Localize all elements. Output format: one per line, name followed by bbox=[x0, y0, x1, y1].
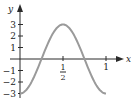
x-axis-label: x bbox=[126, 54, 131, 64]
y-tick-label: −1 bbox=[3, 66, 16, 76]
y-tick-label: −3 bbox=[3, 89, 17, 99]
y-tick-label: 2 bbox=[10, 31, 16, 41]
y-tick-label: −2 bbox=[3, 77, 16, 87]
y-axis-label: y bbox=[7, 4, 14, 14]
chart: x y 321−1−2−3121 bbox=[0, 0, 131, 101]
y-axis-arrow-icon bbox=[17, 4, 23, 12]
x-tick-label-numerator: 1 bbox=[60, 63, 65, 72]
x-axis-arrow-icon bbox=[116, 56, 124, 62]
axes: x y bbox=[7, 4, 131, 98]
y-tick-label: 1 bbox=[10, 43, 16, 53]
x-tick-label: 1 bbox=[103, 62, 109, 72]
x-tick-label-denominator: 2 bbox=[60, 73, 65, 82]
y-tick-label: 3 bbox=[10, 20, 16, 30]
